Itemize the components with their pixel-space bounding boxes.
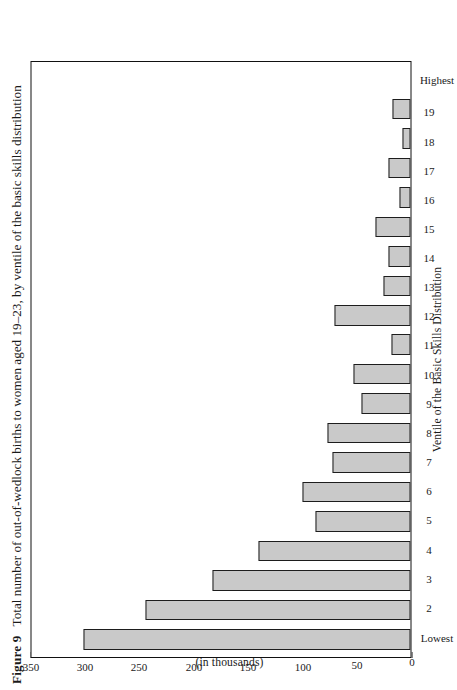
- bar-cell: [31, 242, 410, 271]
- value-axis-tick-label: 350: [22, 663, 39, 674]
- bar-cell: [31, 625, 410, 654]
- bar[interactable]: [302, 482, 410, 503]
- bar[interactable]: [388, 158, 410, 179]
- bar-cell: [31, 536, 410, 565]
- bar-cell: [31, 153, 410, 182]
- bar[interactable]: [332, 452, 410, 473]
- bar[interactable]: [258, 541, 410, 562]
- bar[interactable]: [402, 128, 410, 149]
- bar[interactable]: [334, 305, 410, 326]
- plot-area: [30, 61, 411, 658]
- value-axis: Number of Children Born Out Of Wedlock (…: [30, 658, 411, 690]
- bar[interactable]: [212, 570, 410, 591]
- figure-rotated-canvas: Figure 9Total number of out-of-wedlock b…: [0, 0, 457, 690]
- bar-series: [31, 62, 410, 657]
- bar-cell: [31, 595, 410, 624]
- bar-cell: [31, 389, 410, 418]
- bar[interactable]: [145, 600, 410, 621]
- bar[interactable]: [315, 511, 410, 532]
- bar-cell: [31, 566, 410, 595]
- value-axis-tick-label: 200: [185, 663, 202, 674]
- bar-cell: [31, 94, 410, 123]
- value-axis-tick-label: 0: [408, 657, 414, 668]
- bar-cell: [31, 212, 410, 241]
- bar-cell: [31, 65, 410, 94]
- bar[interactable]: [375, 217, 410, 238]
- value-axis-tick-label: 100: [294, 663, 311, 674]
- bar-cell: [31, 124, 410, 153]
- figure-number: Figure 9: [8, 635, 23, 684]
- figure-caption-text: Total number of out-of-wedlock births to…: [8, 85, 23, 626]
- bar[interactable]: [383, 276, 410, 297]
- bar-cell: [31, 359, 410, 388]
- bar[interactable]: [392, 99, 410, 120]
- bar-cell: [31, 418, 410, 447]
- value-axis-tick-label: 150: [239, 663, 256, 674]
- value-axis-tick-label: 50: [351, 660, 362, 671]
- figure-caption: Figure 9Total number of out-of-wedlock b…: [8, 8, 23, 684]
- bar-cell: [31, 448, 410, 477]
- category-axis-title: Ventile of the Basic Skills Distribution: [430, 61, 443, 658]
- value-axis-tick-label: 300: [76, 663, 93, 674]
- bar[interactable]: [83, 629, 410, 650]
- bar-cell: [31, 183, 410, 212]
- bar[interactable]: [391, 334, 410, 355]
- bar[interactable]: [327, 423, 410, 444]
- bar-cell: [31, 330, 410, 359]
- bar-cell: [31, 507, 410, 536]
- value-axis-tick-label: 250: [131, 663, 148, 674]
- bar[interactable]: [361, 393, 410, 414]
- bar-cell: [31, 477, 410, 506]
- bar[interactable]: [399, 187, 410, 208]
- bar[interactable]: [388, 246, 410, 267]
- bar-cell: [31, 301, 410, 330]
- bar-cell: [31, 271, 410, 300]
- bar[interactable]: [353, 364, 410, 385]
